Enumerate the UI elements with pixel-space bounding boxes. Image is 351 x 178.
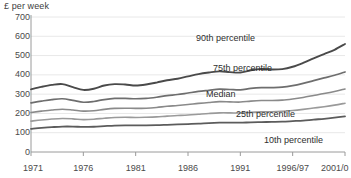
series-label-3: 25th percentile — [236, 110, 295, 119]
x-axis-tick-label: 1991 — [230, 164, 250, 173]
chart-container: £ per week 0100200300400500600700 197119… — [0, 0, 351, 178]
x-axis-labels: 197119761981198619911996/972001/0 — [0, 0, 351, 178]
series-label-2: Median — [206, 90, 236, 99]
x-axis-tick-label: 1971 — [23, 164, 43, 173]
x-axis-tick-label: 1996/97 — [276, 164, 309, 173]
x-axis-tick-label: 2001/0 — [321, 164, 349, 173]
series-label-0: 90th percentile — [196, 34, 255, 43]
x-axis-tick-label: 1986 — [178, 164, 198, 173]
series-label-4: 10th percentile — [264, 136, 323, 145]
x-axis-tick-label: 1976 — [73, 164, 93, 173]
series-label-1: 75th percentile — [213, 64, 272, 73]
x-axis-tick-label: 1981 — [126, 164, 146, 173]
